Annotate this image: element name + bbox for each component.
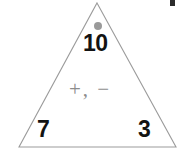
addend-right-value: 3 <box>138 118 151 141</box>
worksheet-figure: 10 +, − 7 3 <box>0 0 187 163</box>
operators-label: +, − <box>69 79 111 100</box>
apex-dot-icon <box>94 22 102 30</box>
addend-left-value: 7 <box>37 118 50 141</box>
page-edge-mark-icon <box>170 0 175 6</box>
sum-value: 10 <box>83 32 108 55</box>
